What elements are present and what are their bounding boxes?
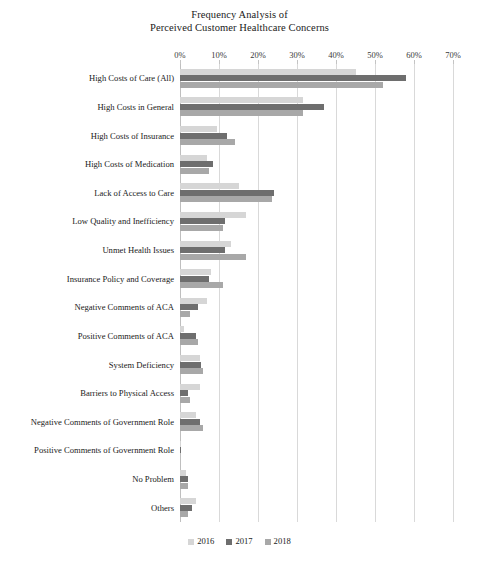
legend-label: 2016 [197, 536, 214, 547]
y-axis-category-label: High Costs of Medication [85, 159, 174, 170]
y-axis-category-label: Barriers to Physical Access [80, 388, 174, 399]
bar-2018 [180, 311, 190, 317]
bar-2018 [180, 139, 235, 145]
bar-2018 [180, 110, 303, 116]
chart-category-row: Positive Comments of ACA [180, 322, 453, 351]
y-axis-category-label: Insurance Policy and Coverage [67, 273, 174, 284]
y-axis-category-label: Negative Comments of Government Role [31, 416, 174, 427]
bar-2018 [180, 339, 198, 345]
bar-2016 [180, 183, 239, 189]
y-axis-category-label: Unmet Health Issues [102, 245, 174, 256]
bar-2016 [180, 69, 356, 75]
chart-container: Frequency Analysis of Perceived Customer… [0, 0, 479, 571]
chart-category-row: Low Quality and Inefficiency [180, 207, 453, 236]
bar-2016 [180, 241, 231, 247]
chart-category-row: Insurance Policy and Coverage [180, 264, 453, 293]
bar-2017 [180, 276, 209, 282]
bar-2017 [180, 247, 225, 253]
bar-2017 [180, 333, 196, 339]
bar-2018 [180, 82, 383, 88]
chart-category-row: Unmet Health Issues [180, 236, 453, 265]
x-tickmark [453, 60, 454, 64]
chart-category-row: Negative Comments of ACA [180, 293, 453, 322]
y-axis-category-label: No Problem [132, 474, 174, 485]
legend-label: 2017 [235, 536, 252, 547]
bar-2016 [180, 470, 186, 476]
bar-2018 [180, 282, 223, 288]
bar-2016 [180, 97, 303, 103]
bar-2016 [180, 298, 207, 304]
bar-2016 [180, 155, 207, 161]
bar-2017 [180, 304, 198, 310]
chart-category-row: Barriers to Physical Access [180, 379, 453, 408]
bar-2018 [180, 168, 209, 174]
bar-2018 [180, 511, 188, 517]
bar-2016 [180, 498, 196, 504]
y-axis-category-label: Others [151, 502, 174, 513]
bar-2017 [180, 505, 192, 511]
chart-category-row: Negative Comments of Government Role [180, 408, 453, 437]
bar-2016 [180, 126, 217, 132]
y-axis-category-label: Positive Comments of ACA [78, 330, 174, 341]
bar-2017 [180, 362, 201, 368]
bar-2016 [180, 441, 181, 447]
y-axis-category-label: System Deficiency [109, 359, 174, 370]
y-axis-category-label: High Costs in General [97, 101, 174, 112]
y-axis-category-label: High Costs of Insurance [91, 130, 174, 141]
bar-2017 [180, 447, 181, 453]
plot-area: High Costs of Care (All)High Costs in Ge… [180, 64, 453, 522]
bar-2017 [180, 218, 225, 224]
y-axis-category-label: Positive Comments of Government Role [34, 445, 174, 456]
chart-category-row: No Problem [180, 465, 453, 494]
y-axis-category-label: High Costs of Care (All) [89, 73, 174, 84]
bar-2016 [180, 412, 196, 418]
bar-2016 [180, 384, 200, 390]
bar-2017 [180, 419, 200, 425]
legend-swatch-icon [226, 539, 232, 545]
bar-2018 [180, 368, 203, 374]
legend-swatch-icon [265, 539, 271, 545]
chart-title-line-1: Frequency Analysis of [0, 8, 479, 21]
chart-category-row: High Costs in General [180, 93, 453, 122]
bar-2017 [180, 75, 406, 81]
legend-swatch-icon [188, 539, 194, 545]
bar-2018 [180, 225, 223, 231]
chart-category-row: High Costs of Care (All) [180, 64, 453, 93]
chart-title: Frequency Analysis of Perceived Customer… [0, 8, 479, 34]
chart-category-row: Others [180, 493, 453, 522]
bar-2018 [180, 425, 203, 431]
bar-2018 [180, 196, 272, 202]
bar-2017 [180, 133, 227, 139]
gridline [453, 64, 454, 522]
chart-category-row: System Deficiency [180, 350, 453, 379]
legend-item-2017[interactable]: 2017 [226, 536, 252, 547]
chart-category-row: High Costs of Insurance [180, 121, 453, 150]
legend-item-2016[interactable]: 2016 [188, 536, 214, 547]
bar-2017 [180, 190, 274, 196]
chart-title-line-2: Perceived Customer Healthcare Concerns [0, 21, 479, 34]
bar-2018 [180, 254, 246, 260]
bar-2016 [180, 326, 184, 332]
bar-2017 [180, 161, 213, 167]
bar-2017 [180, 390, 188, 396]
y-axis-category-label: Lack of Access to Care [94, 187, 174, 198]
bar-2018 [180, 483, 188, 489]
bar-2017 [180, 476, 188, 482]
y-axis-category-label: Low Quality and Inefficiency [72, 216, 174, 227]
y-axis-category-label: Negative Comments of ACA [74, 302, 174, 313]
bar-2017 [180, 104, 324, 110]
chart-legend: 201620172018 [0, 536, 479, 547]
legend-label: 2018 [274, 536, 291, 547]
chart-category-row: Positive Comments of Government Role [180, 436, 453, 465]
bar-2016 [180, 212, 246, 218]
chart-category-row: Lack of Access to Care [180, 179, 453, 208]
x-axis-tick-labels: 0%10%20%30%40%50%60%70% [180, 50, 453, 62]
bar-2018 [180, 397, 190, 403]
bar-2016 [180, 269, 211, 275]
chart-category-row: High Costs of Medication [180, 150, 453, 179]
legend-item-2018[interactable]: 2018 [265, 536, 291, 547]
bar-2016 [180, 355, 200, 361]
